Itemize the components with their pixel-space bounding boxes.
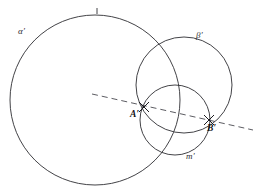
circle-alpha-prime (10, 15, 180, 185)
circle-beta-prime (136, 37, 232, 133)
label-beta-prime: β′ (196, 31, 203, 40)
figure-canvas (0, 0, 261, 189)
label-m-prime: m′ (186, 152, 195, 161)
label-point-a-prime: A′ (130, 110, 139, 120)
geometry-figure: α′ β′ m′ A′ B′ (0, 0, 261, 189)
radical-axis-line (92, 94, 253, 130)
label-point-b-prime: B′ (207, 124, 216, 134)
label-alpha-prime: α′ (18, 27, 25, 36)
